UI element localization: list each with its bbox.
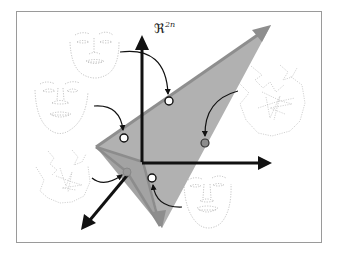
point-lower-left [123, 168, 131, 176]
point-left [120, 134, 128, 142]
point-right-outside [201, 139, 209, 147]
point-top [165, 97, 173, 105]
shape-space-figure: ℜ2n [0, 0, 337, 253]
point-bottom [148, 174, 156, 182]
